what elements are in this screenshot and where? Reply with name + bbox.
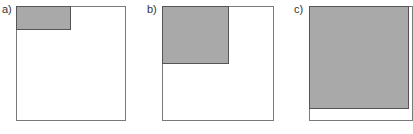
panel-c-shaded-region (309, 6, 409, 109)
panel-a-shaded-region (16, 6, 71, 30)
panel-c-label: c) (294, 3, 303, 15)
panel-b-shaded-region (162, 6, 229, 64)
panel-b-label: b) (147, 3, 157, 15)
panel-a-label: a) (2, 3, 12, 15)
